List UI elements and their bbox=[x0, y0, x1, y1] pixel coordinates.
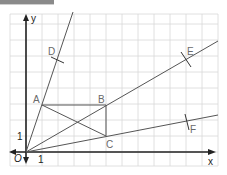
unit-y-label: 1 bbox=[17, 131, 23, 142]
label-A: A bbox=[33, 94, 40, 105]
coordinate-diagram: D E F A B C y x O 1 1 bbox=[0, 0, 227, 175]
label-D: D bbox=[48, 46, 55, 57]
unit-x-label: 1 bbox=[38, 154, 44, 165]
x-axis-label: x bbox=[208, 156, 213, 167]
y-axis-arrow-icon bbox=[23, 14, 29, 21]
y-axis-label: y bbox=[31, 13, 36, 24]
label-C: C bbox=[106, 139, 113, 150]
y-axis-down-arrow-icon bbox=[23, 157, 29, 164]
x-axis-arrow-icon bbox=[208, 149, 216, 155]
label-E: E bbox=[187, 46, 194, 57]
ray-OD bbox=[26, 12, 73, 152]
label-B: B bbox=[98, 94, 105, 105]
origin-label: O bbox=[14, 153, 22, 164]
label-F: F bbox=[190, 124, 196, 135]
y-axis bbox=[23, 14, 29, 164]
